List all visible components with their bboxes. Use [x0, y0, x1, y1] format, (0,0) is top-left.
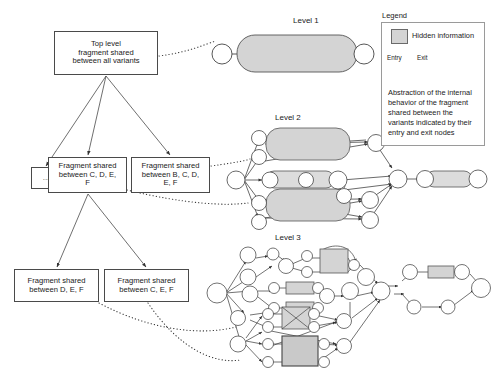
level2-label: Level 2 [275, 113, 301, 122]
fragment-box-top-level[interactable]: Top level fragment shared between all va… [54, 31, 158, 75]
node [231, 311, 246, 326]
entry-node-level1 [212, 44, 232, 64]
box-def-line2: between D, E, F [28, 286, 86, 295]
exit-node-level2 [469, 170, 487, 188]
node [362, 212, 379, 229]
node [240, 247, 256, 263]
hidden-fragment-level2-a [266, 128, 350, 160]
node [240, 269, 256, 285]
hidden-fragment-level3-d [282, 307, 310, 329]
fragment-box-def[interactable]: Fragment shared between D, E, F [14, 269, 99, 302]
node [337, 189, 352, 204]
hidden-fragment-level3-a [320, 249, 348, 273]
box-bcdef-line3: E, F [142, 179, 200, 188]
node [309, 322, 320, 333]
node [455, 265, 470, 280]
node [403, 265, 418, 280]
dotted-connectors [99, 41, 250, 361]
legend-exit-label: Exit [417, 54, 428, 61]
legend-entry-label: Entry [387, 54, 402, 61]
node [263, 309, 274, 320]
node [263, 357, 274, 368]
legend-hidden-label: Hidden information [412, 31, 474, 40]
diagram-canvas: Top level fragment shared between all va… [0, 0, 494, 390]
node [267, 248, 279, 260]
node [358, 269, 375, 286]
box-cdef-line3: F [59, 179, 117, 188]
node [337, 314, 352, 329]
node [329, 171, 347, 189]
legend-title: Legend [382, 11, 407, 20]
box-top-line3: between all variants [72, 57, 139, 66]
exit-node-level3 [472, 279, 491, 298]
node [342, 283, 359, 300]
box-cef-line2: between C, E, F [118, 286, 176, 295]
node [319, 357, 330, 368]
node [252, 196, 267, 211]
node [417, 171, 434, 188]
hidden-fragment-level1 [237, 35, 357, 72]
legend-hidden-swatch [391, 29, 408, 44]
node [263, 322, 274, 333]
hidden-fragment-level3-b [286, 282, 314, 294]
node [269, 283, 280, 294]
node [252, 150, 267, 165]
level3-graph [207, 246, 491, 368]
node [262, 172, 278, 188]
node [279, 259, 294, 274]
node [320, 289, 335, 304]
level1-graph [212, 35, 374, 72]
hidden-fragment-level3-f [428, 266, 454, 278]
fragment-box-cdef[interactable]: Fragment shared between C, D, E, F [48, 157, 127, 193]
node [319, 339, 330, 350]
level3-label: Level 3 [275, 233, 301, 242]
node [372, 282, 390, 300]
hidden-fragment-level3-e [282, 336, 318, 366]
node [407, 300, 421, 314]
node [242, 286, 258, 302]
node [302, 251, 313, 262]
entry-node-level2 [227, 171, 245, 189]
level1-label: Level 1 [293, 16, 319, 25]
fragment-box-bcdef[interactable]: Fragment shared between B, C, D, E, F [131, 157, 210, 193]
node [302, 267, 313, 278]
node [362, 192, 379, 209]
entry-node-level3 [207, 283, 227, 303]
node [389, 170, 407, 188]
node [230, 336, 246, 352]
node [299, 173, 314, 188]
node [309, 309, 320, 320]
node [263, 339, 274, 350]
node [337, 339, 352, 354]
node [441, 300, 455, 314]
node [252, 215, 267, 230]
exit-node-level1 [354, 44, 374, 64]
fragment-box-cef[interactable]: Fragment shared between C, E, F [104, 269, 189, 302]
legend-description: Abstraction of the internal behavior of … [388, 88, 480, 138]
node [349, 260, 360, 271]
node [252, 131, 267, 146]
